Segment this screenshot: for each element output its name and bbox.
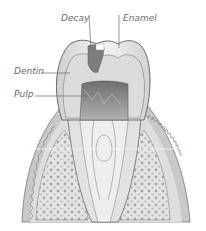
label-pulp: Pulp xyxy=(14,89,33,99)
tooth-illustration xyxy=(0,0,206,231)
tooth-diagram: Decay Enamel Dentin Pulp xyxy=(0,0,206,231)
tooth-crown xyxy=(56,40,150,120)
label-enamel: Enamel xyxy=(123,13,157,23)
label-decay: Decay xyxy=(61,13,89,23)
label-dentin: Dentin xyxy=(14,66,44,76)
